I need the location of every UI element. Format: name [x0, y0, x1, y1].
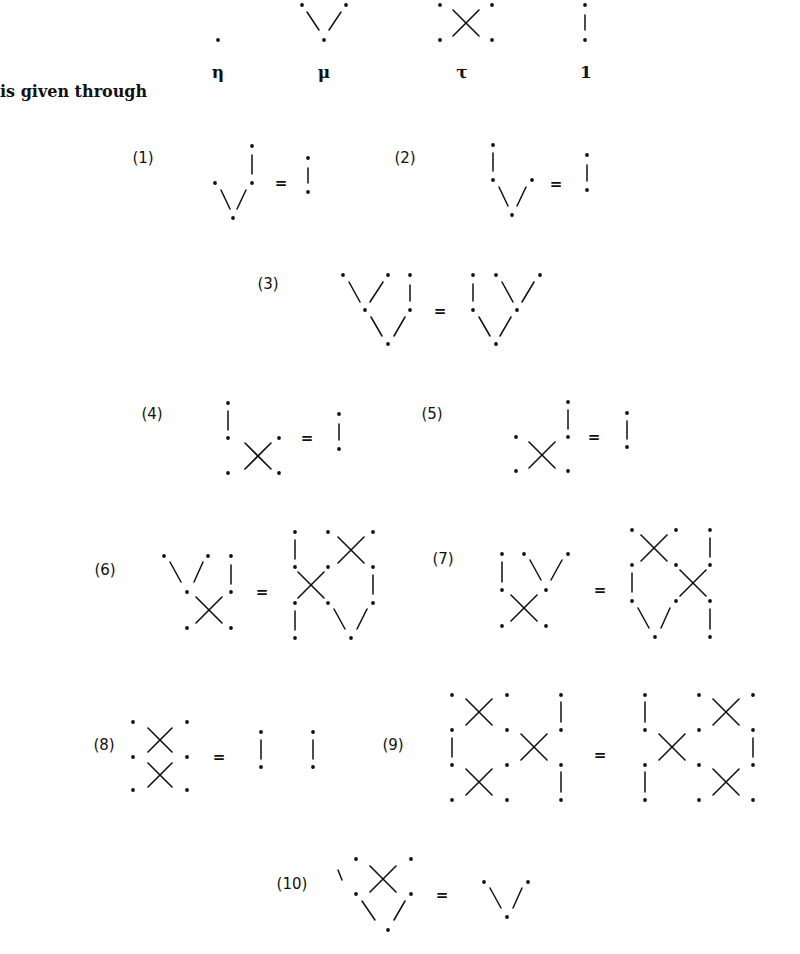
node-dot [505, 763, 509, 767]
strand-segment [329, 12, 341, 30]
equals-sign: = [301, 429, 314, 447]
node-dot [583, 3, 587, 7]
node-dot [326, 601, 330, 605]
node-dot [585, 153, 589, 157]
node-dot [751, 798, 755, 802]
node-dot [131, 720, 135, 724]
equals-sign: = [436, 886, 449, 904]
node-dot [409, 857, 413, 861]
node-dot [450, 693, 454, 697]
node-dot [250, 144, 254, 148]
node-dot [505, 798, 509, 802]
node-dot [450, 728, 454, 732]
strand-segment [661, 608, 670, 628]
node-dot [697, 763, 701, 767]
generator-label-identity: 1 [580, 62, 592, 82]
node-dot [300, 3, 304, 7]
node-dot [544, 624, 548, 628]
node-dot [293, 636, 297, 640]
node-dot [371, 565, 375, 569]
crossing-icon [529, 442, 555, 468]
strand-segment [502, 282, 513, 302]
node-dot [500, 588, 504, 592]
node-dot [226, 436, 230, 440]
node-dot [751, 763, 755, 767]
node-dot [544, 588, 548, 592]
node-dot [585, 188, 589, 192]
node-dot [322, 38, 326, 42]
node-dot [625, 445, 629, 449]
node-dot [337, 447, 341, 451]
node-dot [471, 308, 475, 312]
node-dot [630, 563, 634, 567]
equals-sign: = [256, 583, 269, 601]
node-dot [326, 565, 330, 569]
equals-sign: = [275, 174, 288, 192]
node-dot [674, 599, 678, 603]
node-dot [185, 788, 189, 792]
equals-sign: = [550, 175, 563, 193]
node-dot [505, 915, 509, 919]
node-dot [643, 693, 647, 697]
node-dot [259, 765, 263, 769]
node-dot [653, 635, 657, 639]
node-dot [500, 624, 504, 628]
strand-segment [513, 888, 522, 908]
node-dot [500, 552, 504, 556]
node-dot [643, 728, 647, 732]
node-dot [494, 273, 498, 277]
strand-segment [170, 562, 181, 582]
strand-segment [357, 609, 367, 629]
generator-label-mu: μ [318, 62, 330, 82]
node-dot [229, 626, 233, 630]
node-dot [630, 528, 634, 532]
node-dot [491, 178, 495, 182]
node-dot [751, 693, 755, 697]
crossing-icon [511, 595, 537, 621]
crossing-icon [370, 866, 396, 892]
equation-label-10: (10) [277, 875, 308, 893]
node-dot [162, 554, 166, 558]
equation-label-2: (2) [394, 149, 415, 167]
node-dot [226, 401, 230, 405]
equation-label-9: (9) [382, 736, 403, 754]
node-dot [337, 412, 341, 416]
node-dot [277, 436, 281, 440]
node-dot [408, 308, 412, 312]
node-dot [250, 181, 254, 185]
crossing-icon [521, 734, 547, 760]
node-dot [708, 563, 712, 567]
equation-label-4: (4) [141, 405, 162, 423]
strand-segment [517, 187, 526, 206]
equation-label-3: (3) [257, 275, 278, 293]
strand-segment [394, 317, 405, 336]
strand-segment [370, 282, 383, 302]
node-dot [566, 435, 570, 439]
node-dot [409, 892, 413, 896]
node-dot [505, 693, 509, 697]
node-dot [185, 626, 189, 630]
node-dot [306, 190, 310, 194]
node-dot [293, 530, 297, 534]
node-dot [450, 763, 454, 767]
node-dot [505, 728, 509, 732]
node-dot [354, 892, 358, 896]
crossing-icon [680, 570, 706, 596]
crossing-icon [641, 535, 667, 561]
node-dot [231, 216, 235, 220]
node-dot [515, 308, 519, 312]
node-dot [438, 38, 442, 42]
node-dot [226, 471, 230, 475]
equals-sign: = [588, 428, 601, 446]
node-dot [751, 728, 755, 732]
node-dot [559, 763, 563, 767]
node-dot [216, 38, 220, 42]
node-dot [625, 411, 629, 415]
node-dot [510, 213, 514, 217]
node-dot [530, 178, 534, 182]
strand-segment [394, 901, 405, 920]
node-dot [697, 693, 701, 697]
crossing-icon [148, 763, 172, 787]
equation-label-8: (8) [93, 736, 114, 754]
crossing-icon [466, 699, 492, 725]
